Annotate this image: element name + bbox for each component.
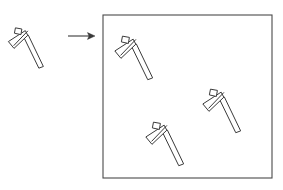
figure-svg — [0, 0, 283, 190]
source-hammer-tool-icon — [4, 25, 55, 70]
figure-canvas — [0, 0, 283, 190]
transform-arrow-icon — [68, 33, 95, 40]
